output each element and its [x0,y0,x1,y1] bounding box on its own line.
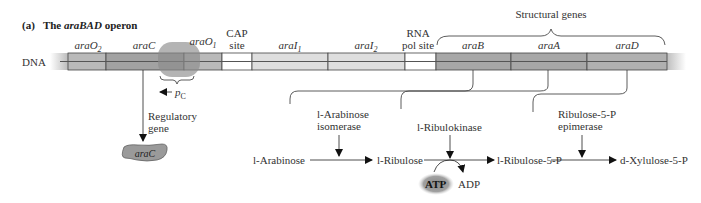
label-line1: CAP [226,27,247,39]
label-cap-site: CAPsite [226,27,247,51]
label-araD: araD [615,39,638,51]
label-sub: 1 [297,45,301,54]
connector-araB [290,70,473,104]
regulatory-gene-label: Regulatorygene [148,110,197,134]
connector-araA [401,70,548,109]
label-sub: 2 [373,45,377,54]
label-araA: araA [538,39,560,51]
enzyme-kinase: l-Ribulokinase [417,121,482,133]
dna-fade-right [666,53,686,70]
metabolite-l-ribulose-5-p: l-Ribulose-5-P [497,154,562,166]
adp-label: ADP [458,178,480,190]
label-base: araO [74,39,97,51]
promoter-label: pC [175,86,186,103]
label-line2: epimerase [558,120,616,132]
label-araI1: araI1 [279,39,302,56]
label-base: araO [189,35,212,47]
label-line2: site [226,39,247,51]
label-araB: araB [462,39,484,51]
label-araO2: araO2 [74,39,101,56]
label-base: araI [279,39,298,51]
label-sub: 2 [98,45,102,54]
label-line2: isomerase [317,120,369,132]
label-line1: RNA [402,27,434,39]
arac-protein-label: araC [135,148,156,160]
title-gene: araBAD [64,19,102,31]
label-line1: Ribulose-5-P [558,108,616,120]
label-araI2: araI2 [355,39,378,56]
enzyme-isomerase: l-Arabinoseisomerase [317,108,369,132]
promoter-brace [160,76,194,84]
label-line1: Regulatory [148,110,197,122]
connector-araD [533,70,627,112]
label-rna-pol-site: RNApol site [402,27,434,51]
label-sub: C [181,92,186,101]
metabolite-l-ribulose: l-Ribulose [377,154,423,166]
title-suffix: operon [102,19,138,31]
label-base: araI [355,39,374,51]
label-araO1: araO1 [189,35,216,52]
metabolite-l-arabinose: l-Arabinose [253,154,305,166]
label-araC: araC [133,39,156,51]
atp-adp-curve [434,160,463,172]
label-line1: l-Arabinose [317,108,369,120]
label-sub: 1 [213,41,217,50]
metabolite-d-xylulose-5-p: d-Xylulose-5-P [620,154,688,166]
atp-label: ATP [425,178,446,190]
label-line2: gene [148,122,197,134]
structural-genes-label: Structural genes [515,8,586,20]
panel-label: (a) [22,19,35,31]
title-prefix: The [43,19,64,31]
enzyme-epimerase: Ribulose-5-Pepimerase [558,108,616,132]
dna-label: DNA [22,56,46,68]
figure-title: (a) The araBAD operon [22,19,137,31]
label-line2: pol site [402,39,434,51]
